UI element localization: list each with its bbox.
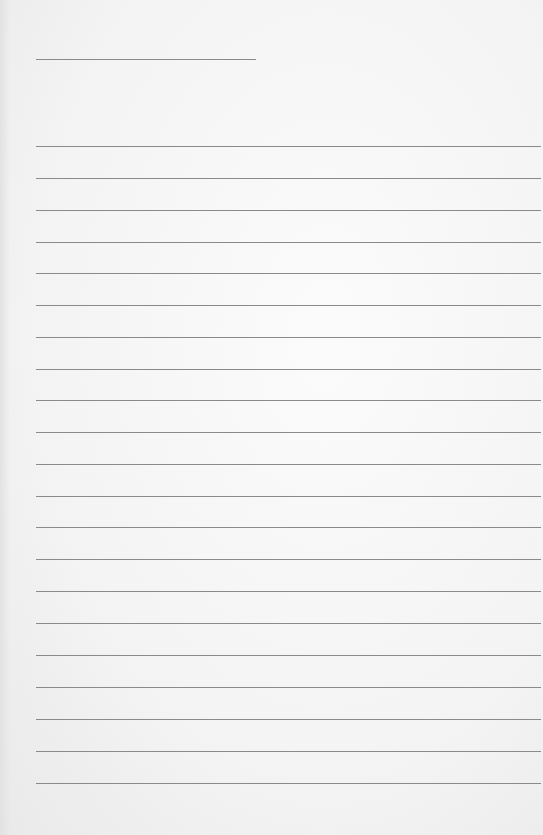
writing-line — [36, 687, 541, 688]
writing-line — [36, 146, 541, 147]
writing-line — [36, 273, 541, 274]
writing-line — [36, 623, 541, 624]
writing-line — [36, 783, 541, 784]
writing-line — [36, 496, 541, 497]
writing-line — [36, 242, 541, 243]
writing-line — [36, 527, 541, 528]
writing-line — [36, 305, 541, 306]
writing-line — [36, 751, 541, 752]
lined-paper-page — [0, 0, 543, 835]
writing-line — [36, 591, 541, 592]
writing-line — [36, 178, 541, 179]
writing-line — [36, 559, 541, 560]
writing-line — [36, 719, 541, 720]
writing-line — [36, 337, 541, 338]
writing-line — [36, 655, 541, 656]
writing-line — [36, 464, 541, 465]
writing-line — [36, 210, 541, 211]
title-line — [36, 59, 256, 60]
writing-line — [36, 369, 541, 370]
writing-line — [36, 400, 541, 401]
writing-line — [36, 432, 541, 433]
